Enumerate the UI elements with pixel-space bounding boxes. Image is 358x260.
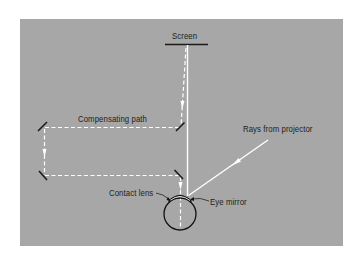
mirror-bottom-right — [175, 170, 184, 179]
mirror-top-left — [38, 122, 47, 131]
label-contact-lens: Contact lens — [109, 187, 153, 198]
label-compensating-path: Compensating path — [78, 113, 147, 124]
mirror-top-right — [176, 123, 185, 132]
arrow-down-icon — [181, 101, 185, 109]
contact-lens-leader — [156, 193, 169, 199]
dashed-path-screen-to-mirror — [181, 48, 186, 126]
arrow-down-icon — [43, 149, 47, 157]
arrow-down-icon — [179, 182, 183, 190]
label-rays-from-projector: Rays from projector — [243, 123, 313, 134]
eye-mirror-leader — [192, 198, 209, 201]
label-eye-mirror: Eye mirror — [210, 196, 247, 207]
projector-ray — [189, 140, 269, 196]
label-screen: Screen — [172, 30, 197, 41]
